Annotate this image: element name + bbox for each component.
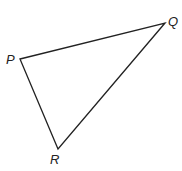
triangle-pqr [20, 23, 165, 149]
vertex-label-r: R [50, 152, 59, 167]
vertex-label-p: P [6, 52, 15, 67]
vertex-label-q: Q [168, 14, 178, 29]
triangle-diagram: P Q R [0, 0, 182, 171]
